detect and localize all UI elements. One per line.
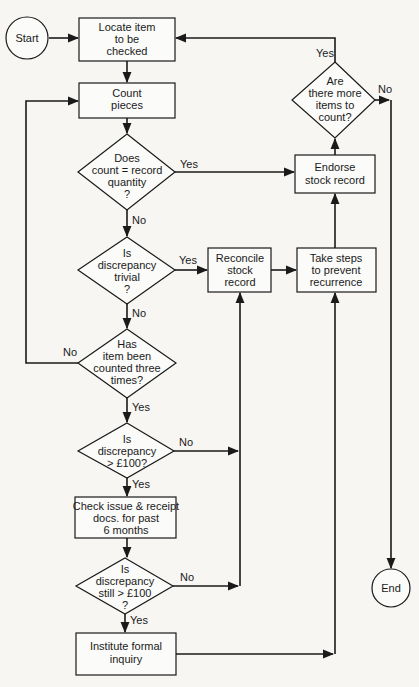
label-three-no: No (63, 346, 77, 358)
node-decision-more-line: count? (318, 111, 351, 123)
node-decision-trivial-line: discrepancy (98, 259, 157, 271)
node-locate: Locate item to be checked (79, 18, 175, 61)
node-prevent-line: recurrence (310, 276, 363, 288)
node-decision-still-line: ? (122, 599, 128, 611)
label-match-no: No (132, 214, 146, 226)
node-institute-inquiry: Institute formal inquiry (76, 633, 176, 675)
node-end: End (372, 569, 410, 607)
node-decision-trivial-line: Is (123, 247, 132, 259)
node-decision-match: Does count = record quantity ? (78, 134, 175, 210)
node-decision-more-line: items to (316, 99, 355, 111)
node-endorse-line: stock record (305, 174, 365, 186)
node-check-docs-line: 6 months (103, 524, 149, 536)
node-decision-still-line: discrepancy (96, 575, 155, 587)
node-decision-still-over-100: Is discrepancy still > £100 ? (76, 558, 173, 614)
node-decision-match-line: Does (114, 152, 140, 164)
label-trivial-no: No (132, 307, 146, 319)
node-locate-line: to be (115, 33, 139, 45)
node-decision-trivial-line: trivial (114, 271, 140, 283)
label-100-no: No (179, 436, 193, 448)
node-locate-line: checked (107, 45, 148, 57)
node-decision-over-100-line: > £100? (107, 457, 147, 469)
node-count-line: Count (112, 87, 141, 99)
node-decision-over-100-line: discrepancy (98, 445, 157, 457)
label-still-yes: Yes (130, 614, 148, 626)
node-decision-over-100-line: Is (123, 433, 132, 445)
node-prevent-line: Take steps (310, 252, 363, 264)
node-decision-match-line: count = record (92, 164, 163, 176)
edge-three-no-loop (26, 101, 78, 363)
node-reconcile: Reconcile stock record (208, 248, 271, 292)
node-decision-three: Has item been counted three times? (78, 329, 176, 398)
node-decision-trivial-line: ? (124, 283, 130, 295)
node-decision-three-line: times? (111, 374, 143, 386)
node-reconcile-line: stock (227, 264, 253, 276)
node-decision-more-items: Are there more items to count? (292, 62, 375, 138)
stock-check-flowchart: Yes No Yes No No Yes No Yes No Yes Yes N… (0, 0, 419, 687)
node-decision-three-line: Has (117, 338, 137, 350)
node-decision-match-line: quantity (108, 176, 147, 188)
edge-labels: Yes No Yes No No Yes No Yes No Yes Yes N… (63, 47, 392, 626)
label-three-yes: Yes (132, 401, 150, 413)
node-inquiry-line: inquiry (110, 653, 143, 665)
node-inquiry-line: Institute formal (90, 640, 162, 652)
label-trivial-yes: Yes (179, 254, 197, 266)
node-decision-more-line: there more (308, 87, 361, 99)
node-reconcile-line: record (224, 276, 255, 288)
node-prevent-recurrence: Take steps to prevent recurrence (297, 248, 376, 292)
node-check-docs-line: docs. for past (93, 512, 159, 524)
node-decision-trivial: Is discrepancy trivial ? (78, 237, 175, 304)
node-endorse-line: Endorse (315, 161, 356, 173)
node-decision-over-100: Is discrepancy > £100? (78, 423, 174, 478)
label-more-no: No (378, 83, 392, 95)
label-more-yes: Yes (316, 47, 334, 59)
edge-more-yes-locate (176, 38, 335, 62)
node-decision-three-line: counted three (93, 362, 160, 374)
node-locate-line: Locate item (99, 21, 156, 33)
node-start: Start (6, 17, 48, 59)
node-prevent-line: to prevent (312, 264, 361, 276)
node-check-docs: Check issue & receipt docs. for past 6 m… (73, 497, 179, 538)
node-reconcile-line: Reconcile (216, 252, 264, 264)
label-100-yes: Yes (132, 478, 150, 490)
node-decision-match-line: ? (124, 188, 130, 200)
node-decision-still-line: Is (121, 563, 130, 575)
node-count: Count pieces (79, 83, 175, 118)
node-check-docs-line: Check issue & receipt (73, 500, 179, 512)
node-endorse: Endorse stock record (295, 155, 375, 193)
node-count-line: pieces (111, 99, 143, 111)
node-decision-still-line: still > £100 (99, 587, 152, 599)
label-match-yes: Yes (180, 158, 198, 170)
node-end-text: End (381, 582, 401, 594)
label-still-no: No (180, 571, 194, 583)
node-decision-three-line: item been (103, 350, 151, 362)
node-start-text: Start (15, 32, 38, 44)
node-decision-more-line: Are (326, 75, 343, 87)
